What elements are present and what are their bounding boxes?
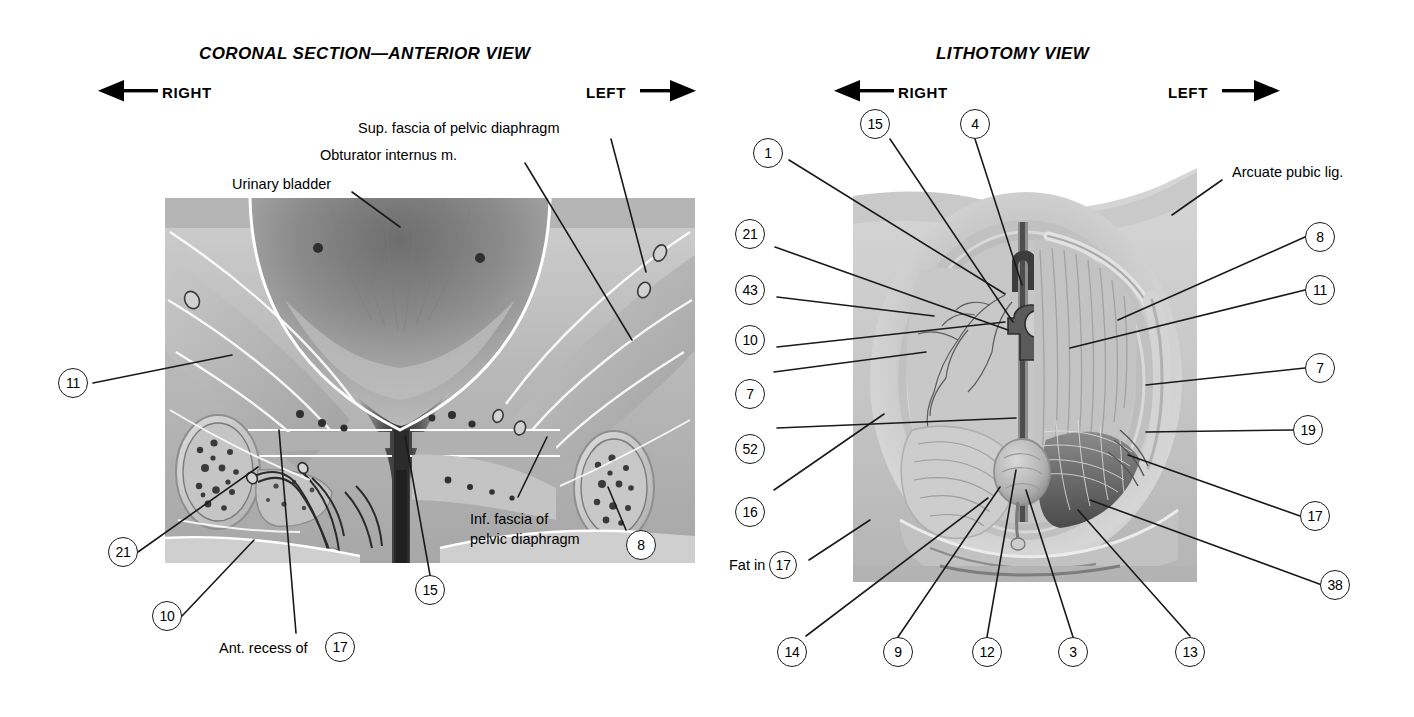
coronal-right-word: RIGHT: [162, 84, 212, 101]
lithotomy-left-word: LEFT: [1168, 84, 1208, 101]
ant-recess-of-label: Ant. recess of: [219, 639, 308, 657]
callout-number: 14: [785, 644, 800, 660]
callout-number: 3: [1069, 644, 1077, 660]
callout-number: 17: [333, 639, 348, 655]
arrow-right-icon-coronal: [640, 80, 696, 101]
callout-number: 38: [1328, 577, 1343, 593]
lithotomy-callout-19[interactable]: 19: [1293, 415, 1323, 445]
lithotomy-panel-title: LITHOTOMY VIEW: [936, 44, 1089, 64]
callout-number: 4: [971, 116, 979, 132]
callout-number: 17: [775, 557, 791, 573]
lithotomy-callout-17-right[interactable]: 17: [1300, 501, 1330, 531]
coronal-callout-17[interactable]: 17: [325, 632, 355, 662]
lithotomy-callout-14[interactable]: 14: [777, 637, 807, 667]
urinary-bladder-label: Urinary bladder: [232, 175, 331, 193]
lithotomy-callout-16[interactable]: 16: [735, 497, 765, 527]
inf-fascia-label-line2: pelvic diaphragm: [470, 530, 580, 548]
callout-number: 11: [1313, 282, 1327, 298]
callout-number: 8: [637, 537, 645, 553]
lithotomy-callout-17-fat[interactable]: 17: [769, 551, 797, 579]
callout-number: 52: [743, 441, 758, 457]
lithotomy-callout-7-right[interactable]: 7: [1305, 353, 1335, 383]
coronal-illustration: [0, 0, 1414, 717]
callout-number: 15: [868, 116, 883, 132]
coronal-left-word: LEFT: [586, 84, 626, 101]
arrow-left-icon-coronal: [98, 80, 158, 101]
lithotomy-callout-3[interactable]: 3: [1058, 637, 1088, 667]
callout-number: 11: [66, 375, 80, 391]
obturator-internus-label: Obturator internus m.: [320, 146, 457, 164]
coronal-callout-21[interactable]: 21: [108, 537, 138, 567]
callout-number: 8: [1316, 229, 1324, 245]
coronal-callout-10[interactable]: 10: [152, 601, 182, 631]
callout-number: 17: [1308, 508, 1323, 524]
anatomy-plate: CORONAL SECTION—ANTERIOR VIEW RIGHT LEFT…: [0, 0, 1414, 717]
callout-number: 1: [764, 145, 772, 161]
lithotomy-callout-52[interactable]: 52: [735, 434, 765, 464]
callout-number: 21: [116, 544, 131, 560]
arrow-left-icon-lithotomy: [834, 80, 894, 101]
callout-number: 7: [1316, 360, 1324, 376]
callout-number: 15: [423, 582, 438, 598]
lithotomy-callout-21[interactable]: 21: [735, 219, 765, 249]
callout-number: 7: [746, 386, 754, 402]
callout-number: 21: [743, 226, 758, 242]
callout-number: 43: [743, 282, 758, 298]
callout-number: 13: [1183, 644, 1198, 660]
lithotomy-callout-43[interactable]: 43: [735, 275, 765, 305]
lithotomy-callout-15[interactable]: 15: [860, 109, 890, 139]
coronal-callout-11[interactable]: 11: [58, 368, 88, 398]
lithotomy-right-word: RIGHT: [898, 84, 948, 101]
callout-number: 10: [160, 608, 175, 624]
arcuate-pubic-lig-label: Arcuate pubic lig.: [1232, 163, 1343, 181]
lithotomy-callout-7[interactable]: 7: [735, 379, 765, 409]
lithotomy-callout-11[interactable]: 11: [1305, 275, 1335, 305]
callout-number: 19: [1301, 422, 1316, 438]
sup-fascia-of-pelvic-diaphragm-label: Sup. fascia of pelvic diaphragm: [358, 119, 560, 137]
callout-number: 12: [980, 644, 995, 660]
lithotomy-callout-8[interactable]: 8: [1305, 222, 1335, 252]
lithotomy-callout-12[interactable]: 12: [972, 637, 1002, 667]
coronal-callout-15[interactable]: 15: [415, 575, 445, 605]
orientation-arrows: [98, 80, 1280, 101]
coronal-callout-8[interactable]: 8: [626, 530, 656, 560]
fat-in-label-group: Fat in 17: [729, 551, 797, 579]
callout-number: 16: [743, 504, 758, 520]
lithotomy-callout-38[interactable]: 38: [1320, 570, 1350, 600]
arrow-right-icon-lithotomy: [1222, 80, 1280, 101]
fat-in-label: Fat in: [729, 557, 765, 573]
coronal-panel-title: CORONAL SECTION—ANTERIOR VIEW: [199, 44, 530, 64]
lithotomy-callout-10[interactable]: 10: [735, 325, 765, 355]
lithotomy-callout-4[interactable]: 4: [960, 109, 990, 139]
lithotomy-callout-9[interactable]: 9: [883, 637, 913, 667]
callout-number: 10: [743, 332, 758, 348]
lithotomy-callout-1[interactable]: 1: [753, 138, 783, 168]
inf-fascia-label-line1: Inf. fascia of: [470, 510, 548, 528]
callout-number: 9: [894, 644, 902, 660]
lithotomy-callout-13[interactable]: 13: [1175, 637, 1205, 667]
